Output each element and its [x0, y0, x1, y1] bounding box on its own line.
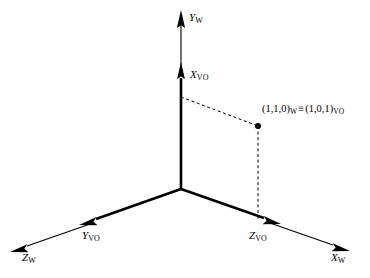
- axis-label-z-world: ZW: [22, 252, 36, 265]
- vo-coords-subscript: VO: [333, 107, 344, 116]
- axis-label-x-world: XW: [331, 252, 346, 265]
- axis-letter: X: [331, 251, 338, 263]
- point-coordinate-annotation: (1,1,0)W≡(1,0,1)VO: [262, 104, 344, 115]
- equivalence-point-dot: [255, 123, 261, 129]
- axis-subscript: VO: [255, 234, 267, 243]
- world-coords: (1,1,0): [262, 103, 290, 114]
- axis-subscript: VO: [88, 234, 100, 243]
- axes-drawing: [0, 0, 370, 278]
- left-axis-group: [10, 189, 181, 252]
- vo-coords: (1,0,1): [305, 103, 333, 114]
- left-axis-thick-segment: [96, 189, 181, 219]
- axis-subscript: W: [338, 256, 346, 265]
- coordinate-frame-diagram: YW XVO ZW YVO XW ZVO (1,1,0)W≡(1,0,1)VO: [0, 0, 370, 278]
- right-axis-thin-segment: [267, 222, 333, 245]
- axis-label-x-vo: XVO: [190, 69, 209, 82]
- vertical-axis-group: [177, 10, 185, 189]
- axis-label-y-world: YW: [189, 12, 203, 25]
- z-vo-arrowhead: [263, 216, 281, 224]
- axis-subscript: W: [195, 16, 203, 25]
- equivalence-symbol: ≡: [297, 103, 305, 114]
- axis-subscript: VO: [197, 73, 209, 82]
- right-axis-thick-segment: [181, 189, 264, 218]
- y-vo-arrowhead: [79, 217, 98, 225]
- axis-label-z-vo: ZVO: [249, 230, 267, 243]
- dashed-line-to-vertical-axis: [181, 97, 258, 126]
- axis-letter: X: [190, 68, 197, 80]
- axis-subscript: W: [28, 256, 36, 265]
- axis-label-y-vo: YVO: [82, 230, 100, 243]
